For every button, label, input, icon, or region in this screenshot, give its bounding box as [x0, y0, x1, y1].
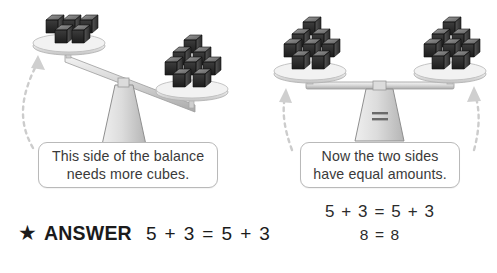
callout-left-line2: needs more cubes.: [52, 165, 204, 183]
equation-line-1: 5 + 3 = 5 + 3: [300, 202, 460, 222]
callout-left: This side of the balance needs more cube…: [38, 142, 218, 188]
dashed-arrow-right-outer: [467, 86, 481, 150]
callout-left-line1: This side of the balance: [52, 147, 204, 165]
answer-label: ANSWER: [44, 222, 132, 245]
dashed-arrow-right-inner: [279, 88, 292, 150]
callout-right-line1: Now the two sides: [313, 147, 447, 165]
answer-row: ★ ANSWER 5 + 3 = 5 + 3: [18, 222, 271, 245]
answer-equation: 5 + 3 = 5 + 3: [146, 223, 271, 245]
fulcrum-right: [355, 81, 404, 141]
scale-pan-right-right-8-cubes: [414, 17, 486, 83]
dashed-arrow-left: [23, 55, 45, 148]
callout-right: Now the two sides have equal amounts.: [300, 142, 460, 188]
equation-line-2: 8 = 8: [300, 226, 460, 244]
worksheet-page: This side of the balance needs more cube…: [0, 0, 497, 273]
scale-pan-left-5-cubes: [33, 15, 105, 55]
star-icon: ★: [18, 222, 37, 243]
callout-right-line2: have equal amounts.: [313, 165, 447, 183]
scale-pan-right-8-cubes: [156, 35, 228, 101]
scale-pan-right-left-8-cubes: [274, 17, 346, 83]
